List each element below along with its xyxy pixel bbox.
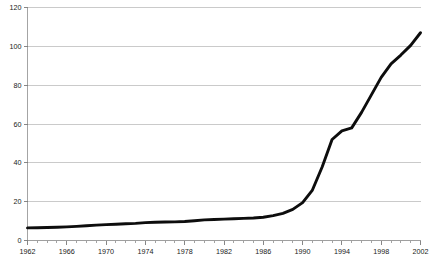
y-tick-labels: 020406080100120 <box>10 3 28 245</box>
x-tick-label: 1998 <box>373 247 389 256</box>
x-tick-label: 1978 <box>177 247 193 256</box>
y-tick-label: 40 <box>14 158 22 167</box>
y-tick-label: 20 <box>14 197 22 206</box>
series-line-series-1 <box>28 33 421 228</box>
data-series-group <box>28 33 421 228</box>
chart-canvas: 020406080100120 196219661970197419781982… <box>0 0 430 278</box>
x-axis <box>28 241 421 245</box>
y-tick-label: 120 <box>10 3 22 12</box>
x-tick-label: 1994 <box>334 247 350 256</box>
line-chart: 020406080100120 196219661970197419781982… <box>0 0 430 278</box>
x-tick-label: 1986 <box>255 247 271 256</box>
x-tick-label: 2002 <box>413 247 429 256</box>
x-tick-label: 1990 <box>295 247 311 256</box>
y-tick-label: 80 <box>14 81 22 90</box>
x-tick-label: 1974 <box>137 247 153 256</box>
x-tick-label: 1966 <box>59 247 75 256</box>
gridlines-group <box>28 8 421 241</box>
x-tick-label: 1982 <box>216 247 232 256</box>
x-tick-labels: 1962196619701974197819821986199019941998… <box>20 247 429 256</box>
x-tick-label: 1970 <box>98 247 114 256</box>
y-tick-label: 60 <box>14 120 22 129</box>
y-tick-label: 100 <box>10 42 22 51</box>
x-tick-label: 1962 <box>20 247 36 256</box>
y-tick-label: 0 <box>18 236 22 245</box>
